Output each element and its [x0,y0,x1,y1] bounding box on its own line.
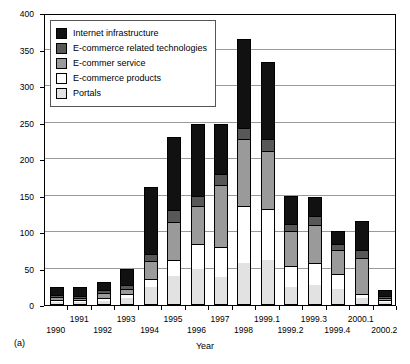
bar-segment [167,260,181,276]
bar-segment [308,216,322,225]
legend-item: Internet infrastructure [56,26,207,41]
bar-stack[interactable] [261,62,275,305]
bar-segment [167,222,181,260]
bar-segment [284,224,298,231]
legend-swatch-icon [56,88,67,99]
x-axis-title: Year [0,341,410,351]
bar-segment [167,137,181,210]
y-axis-tick-label: 50 [0,266,34,275]
y-axis-tick-label: 100 [0,229,34,238]
bar-stack[interactable] [308,197,322,305]
bar-segment [97,282,111,291]
bar-segment [214,174,228,184]
bar-segment [144,187,158,254]
legend-label: E-commerce related technologies [73,44,207,53]
bar-segment [214,277,228,305]
bar-segment [355,221,369,250]
x-axis-tick-mark [326,306,327,310]
bar-segment [284,196,298,224]
x-axis-tick-label: 1990 [36,326,76,335]
x-axis-tick-label: 1999.1 [247,315,287,324]
bar-stack[interactable] [120,269,134,305]
legend-item: E-commer service [56,56,207,71]
x-axis-tick-label: 1991 [59,315,99,324]
bar-segment [308,225,322,264]
x-axis-tick-label: 1998 [223,326,263,335]
legend-label: Portals [73,89,101,98]
y-axis-tick-mark [40,87,44,88]
bar-segment [261,151,275,209]
bar-segment [261,260,275,305]
bar-stack[interactable] [97,282,111,305]
y-axis-tick-label: 0 [0,302,34,311]
bar-segment [355,298,369,305]
legend-swatch-icon [56,43,67,54]
x-axis-tick-mark [396,306,397,310]
bar-segment [378,302,392,305]
y-axis-tick-mark [40,306,44,307]
bar-segment [331,231,345,244]
x-axis-tick-mark [302,306,303,310]
legend-label: E-commer service [73,59,146,68]
y-axis-tick-mark [40,51,44,52]
bar-segment [97,301,111,305]
bar-stack[interactable] [284,196,298,305]
x-axis-tick-label: 1999.3 [294,315,334,324]
bar-segment [284,287,298,305]
bar-stack[interactable] [214,124,228,305]
bar-segment [191,196,205,207]
legend-swatch-icon [56,73,67,84]
y-axis-tick-label: 250 [0,120,34,129]
y-axis-tick-mark [40,197,44,198]
legend-item: E-commerce related technologies [56,41,207,56]
bar-stack[interactable] [191,124,205,305]
bar-segment [237,128,251,139]
bar-stack[interactable] [144,187,158,305]
x-axis-tick-label: 2000.1 [341,315,381,324]
bar-segment [191,124,205,196]
bar-segment [331,274,345,289]
y-axis-tick-label: 400 [0,10,34,19]
bar-segment [308,285,322,305]
legend-swatch-icon [56,58,67,69]
x-axis-tick-label: 1999.4 [317,326,357,335]
bar-segment [73,287,87,296]
bar-stack[interactable] [237,39,251,305]
x-axis-tick-mark [161,306,162,310]
bar-segment [167,276,181,305]
bar-segment [144,279,158,286]
bar-segment [355,250,369,257]
legend-label: Internet infrastructure [73,29,159,38]
bar-stack[interactable] [378,290,392,305]
x-axis-tick-label: 1992 [83,326,123,335]
bar-segment [237,39,251,129]
x-axis-tick-label: 1999.2 [270,326,310,335]
y-axis-tick-mark [40,270,44,271]
bar-stack[interactable] [355,221,369,305]
bar-segment [120,298,134,305]
legend-item: E-commerce products [56,71,207,86]
bar-stack[interactable] [167,137,181,305]
y-axis-tick-label: 300 [0,83,34,92]
bar-segment [214,247,228,278]
legend-swatch-icon [56,28,67,39]
y-axis-tick-mark [40,14,44,15]
bar-stack[interactable] [331,231,345,305]
bar-segment [237,139,251,206]
bar-segment [308,263,322,285]
bar-segment [191,269,205,306]
bar-segment [50,302,64,305]
x-axis-tick-label: 1996 [177,326,217,335]
x-axis-tick-mark [373,306,374,310]
x-axis-tick-mark [138,306,139,310]
figure: 050100150200250300350400 199019911992199… [0,0,410,364]
bar-segment [144,287,158,305]
bar-stack[interactable] [73,287,87,305]
y-axis-tick-mark [40,124,44,125]
bar-stack[interactable] [50,287,64,305]
bar-segment [261,62,275,139]
bar-segment [144,254,158,261]
legend: Internet infrastructureE-commerce relate… [50,20,216,107]
bar-segment [120,269,134,285]
bar-segment [308,197,322,216]
